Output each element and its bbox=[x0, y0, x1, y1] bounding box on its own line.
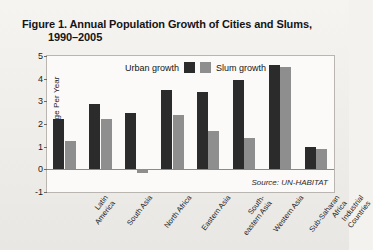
y-tick-label: 1 bbox=[38, 142, 43, 152]
legend-label-urban: Urban growth bbox=[125, 63, 179, 73]
bar bbox=[197, 92, 208, 169]
legend-swatch-urban-icon bbox=[184, 62, 195, 73]
legend-swatch-slum-icon bbox=[200, 62, 211, 73]
figure-title-line1: Figure 1. Annual Population Growth of Ci… bbox=[22, 18, 312, 30]
bar bbox=[173, 115, 184, 169]
y-tick-label: 5 bbox=[38, 51, 43, 61]
bar bbox=[65, 141, 76, 169]
bar bbox=[244, 138, 255, 170]
y-tick-label: 2 bbox=[38, 119, 43, 129]
bar bbox=[53, 119, 64, 169]
bars-layer bbox=[47, 56, 334, 192]
x-tick-label: South Asia bbox=[126, 194, 155, 227]
bar bbox=[137, 169, 148, 172]
bar bbox=[269, 65, 280, 169]
bar bbox=[316, 149, 327, 169]
chart-legend: Urban growth Slum growth bbox=[125, 62, 266, 73]
bar bbox=[89, 104, 100, 170]
bar bbox=[305, 147, 316, 170]
x-axis-labels: LatinAmericaSouth AsiaNorth AfricaEaster… bbox=[46, 194, 335, 248]
bar bbox=[125, 113, 136, 170]
bar bbox=[280, 67, 291, 169]
source-note: Source: UN-HABITAT bbox=[251, 178, 328, 187]
bar bbox=[161, 90, 172, 169]
x-tick-label: North Africa bbox=[163, 194, 194, 230]
y-tick-mark bbox=[44, 192, 47, 193]
x-tick-label-line: South Asia bbox=[126, 194, 155, 227]
x-tick-label: Western Asia bbox=[272, 194, 306, 234]
chart-plot-area: Percent Change Per Year -1012345 Urban g… bbox=[46, 55, 335, 193]
bar bbox=[233, 80, 244, 170]
x-tick-label: IndustrialCountries bbox=[339, 194, 372, 230]
x-tick-label: LatinAmerica bbox=[87, 194, 117, 226]
figure-title: Figure 1. Annual Population Growth of Ci… bbox=[22, 18, 334, 44]
x-tick-label-line: North Africa bbox=[163, 194, 194, 230]
legend-label-slum: Slum growth bbox=[216, 63, 266, 73]
bar bbox=[208, 131, 219, 170]
figure-title-line2: 1990–2005 bbox=[22, 31, 334, 44]
x-tick-label: South-eastern Asia bbox=[235, 194, 274, 237]
bar bbox=[101, 119, 112, 169]
y-tick-label: 0 bbox=[38, 164, 43, 174]
y-tick-label: 4 bbox=[38, 74, 43, 84]
y-tick-label: -1 bbox=[35, 187, 43, 197]
x-tick-label-line: Eastern Asia bbox=[200, 194, 233, 232]
y-tick-label: 3 bbox=[38, 96, 43, 106]
x-tick-label-line: Western Asia bbox=[272, 194, 306, 234]
x-tick-label: Eastern Asia bbox=[200, 194, 233, 232]
